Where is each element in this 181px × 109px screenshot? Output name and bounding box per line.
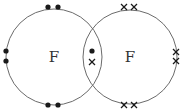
electron-cross-icon (173, 58, 179, 64)
f2-dot-cross-diagram: FF (0, 0, 181, 109)
electron-cross-icon (89, 59, 95, 65)
electron-dot-icon (89, 48, 94, 53)
atom-symbol: F (125, 48, 135, 66)
electron-cross-icon (121, 102, 127, 108)
electron-dot-icon (3, 48, 8, 53)
electron-cross-icon (131, 102, 137, 108)
electron-dot-icon (55, 4, 60, 9)
electron-cross-icon (121, 4, 127, 10)
electron-dot-icon (45, 4, 50, 9)
electron-cross-icon (131, 4, 137, 10)
atom-symbol: F (49, 48, 59, 66)
electron-dot-icon (55, 102, 60, 107)
electron-dot-icon (45, 102, 50, 107)
electron-dot-icon (3, 58, 8, 63)
